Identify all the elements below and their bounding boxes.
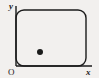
interior-point (37, 49, 43, 55)
figure-canvas: y O x (0, 0, 99, 78)
coordinate-diagram: y O x (0, 0, 99, 78)
x-axis-label: x (85, 67, 91, 77)
origin-label: O (8, 67, 15, 77)
